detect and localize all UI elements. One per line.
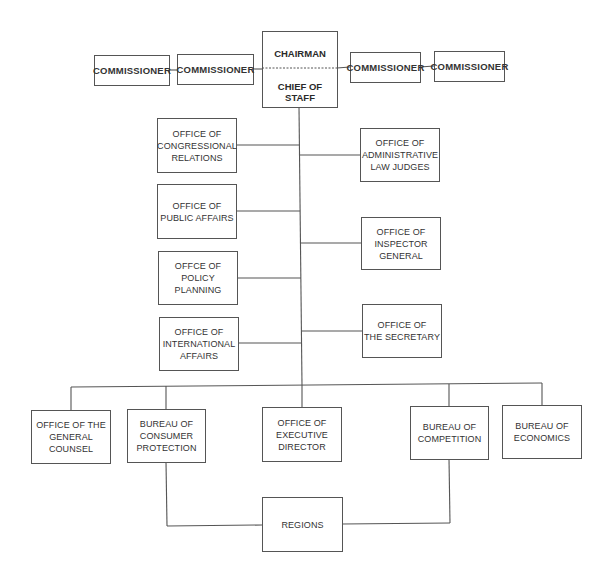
commissioner-label: COMMISSIONER [347, 62, 425, 74]
office-label: OFFICE OF CONGRESSIONAL RELATIONS [157, 128, 237, 164]
office-label: OFFICE OF INSPECTOR GENERAL [374, 226, 427, 262]
office-general-counsel: OFFICE OF THE GENERAL COUNSEL [31, 410, 111, 464]
office-label: OFFICE OF ADMINISTRATIVE LAW JUDGES [362, 137, 438, 173]
commissioner-box-1: COMMISSIONER [94, 55, 170, 86]
unit-label: BUREAU OF COMPETITION [418, 421, 482, 445]
office-public-affairs: OFFICE OF PUBLIC AFFAIRS [157, 184, 237, 239]
commissioner-box-2: COMMISSIONER [177, 54, 254, 85]
office-policy-planning: OFFCE OF POLICY PLANNING [158, 251, 238, 305]
chairman-label: CHAIRMAN [263, 48, 337, 59]
office-inspector-general: OFFICE OF INSPECTOR GENERAL [361, 217, 441, 270]
office-administrative-law-judges: OFFICE OF ADMINISTRATIVE LAW JUDGES [360, 128, 440, 182]
office-the-secretary: OFFICE OF THE SECRETARY [362, 304, 442, 358]
regions-box: REGIONS [262, 497, 343, 552]
chief-of-staff-label: CHIEF OF STAFF [263, 81, 337, 103]
office-label: OFFICE OF PUBLIC AFFAIRS [160, 200, 233, 224]
unit-label: OFFICE OF EXECUTIVE DIRECTOR [276, 417, 328, 453]
bureau-consumer-protection: BUREAU OF CONSUMER PROTECTION [127, 409, 206, 463]
office-label: OFFCE OF POLICY PLANNING [159, 260, 237, 296]
bureau-competition: BUREAU OF COMPETITION [410, 406, 489, 460]
regions-label: REGIONS [281, 519, 323, 531]
office-executive-director: OFFICE OF EXECUTIVE DIRECTOR [262, 407, 342, 462]
office-congressional-relations: OFFICE OF CONGRESSIONAL RELATIONS [157, 118, 237, 173]
unit-label: OFFICE OF THE GENERAL COUNSEL [32, 419, 110, 455]
office-label: OFFICE OF INTERNATIONAL AFFAIRS [163, 326, 236, 362]
unit-label: BUREAU OF CONSUMER PROTECTION [136, 418, 196, 454]
commissioner-label: COMMISSIONER [93, 65, 171, 77]
commissioner-label: COMMISSIONER [177, 64, 255, 76]
commissioner-label: COMMISSIONER [431, 61, 509, 73]
commissioner-box-3: COMMISSIONER [350, 52, 421, 83]
office-international-affairs: OFFICE OF INTERNATIONAL AFFAIRS [159, 317, 239, 371]
office-label: OFFICE OF THE SECRETARY [364, 319, 440, 343]
chairman-chief-of-staff-box: CHAIRMAN CHIEF OF STAFF [262, 31, 338, 108]
unit-label: BUREAU OF ECONOMICS [514, 420, 570, 444]
bureau-economics: BUREAU OF ECONOMICS [502, 405, 582, 459]
commissioner-box-4: COMMISSIONER [434, 51, 505, 82]
